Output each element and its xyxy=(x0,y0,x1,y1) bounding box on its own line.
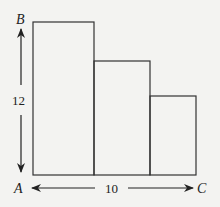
rectangles xyxy=(33,22,196,175)
label-b: B xyxy=(16,12,25,27)
label-c: C xyxy=(197,181,207,196)
rectangle-medium xyxy=(94,61,150,175)
rectangle-short xyxy=(150,96,196,175)
label-a: A xyxy=(13,181,23,196)
rectangle-tall xyxy=(33,22,94,175)
label-height: 12 xyxy=(12,93,25,108)
label-width: 10 xyxy=(105,181,118,196)
staircase-diagram: B 12 A 10 C xyxy=(0,0,220,207)
